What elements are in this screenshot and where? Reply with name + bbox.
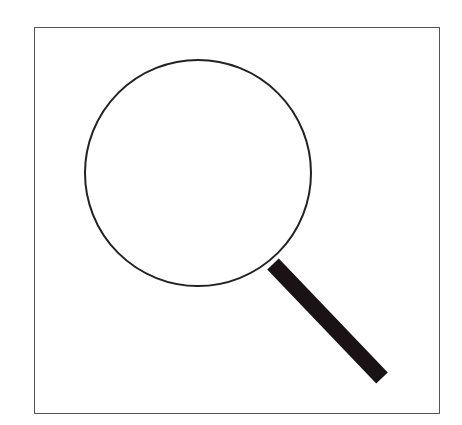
magnifying-glass-icon (0, 0, 462, 425)
lens-circle (85, 60, 311, 286)
handle-bar (273, 264, 382, 378)
